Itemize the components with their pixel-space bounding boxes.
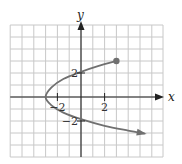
x-tick-label: 2 [101, 101, 108, 114]
grid-lines [10, 25, 163, 157]
y-axis-label: y [76, 8, 84, 22]
curve-arrow-icon [136, 129, 146, 136]
y-tick-label: 2 [71, 67, 78, 80]
curve-endpoint-dot [113, 58, 119, 64]
y-tick-label: −2 [62, 115, 78, 128]
x-axis-label: x [168, 90, 175, 104]
graph: x y −222−2 [0, 0, 182, 164]
x-tick-label: −2 [49, 101, 65, 114]
axes [10, 21, 164, 157]
